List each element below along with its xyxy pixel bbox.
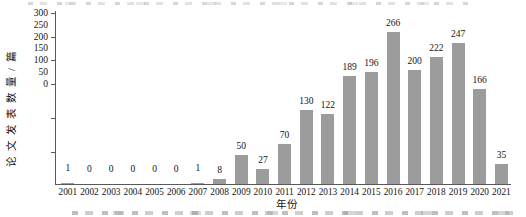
x-tick-label: 2011 bbox=[273, 187, 297, 198]
x-tick-label: 2013 bbox=[316, 187, 340, 198]
cropped-text-artifact-bottom bbox=[72, 211, 518, 215]
y-axis-line bbox=[55, 11, 56, 185]
bar-value-label: 247 bbox=[441, 29, 475, 40]
bar-value-label: 122 bbox=[311, 100, 345, 111]
x-axis-line bbox=[55, 184, 511, 185]
y-tick-mark bbox=[51, 37, 55, 38]
x-tick-label: 2002 bbox=[77, 187, 101, 198]
bar bbox=[473, 89, 486, 184]
y-tick-label: 300 bbox=[14, 7, 48, 19]
bar bbox=[452, 43, 465, 184]
y-tick-mark bbox=[51, 84, 55, 85]
x-tick-label: 2006 bbox=[164, 187, 188, 198]
bar bbox=[495, 164, 508, 184]
bar bbox=[278, 144, 291, 184]
bar bbox=[430, 57, 443, 184]
x-tick-label: 2021 bbox=[489, 187, 513, 198]
x-tick-label: 2004 bbox=[121, 187, 145, 198]
x-tick-label: 2007 bbox=[186, 187, 210, 198]
y-tick-label: 0 bbox=[14, 78, 48, 90]
bar-value-label: 266 bbox=[376, 18, 410, 29]
y-tick-mark bbox=[51, 60, 55, 61]
x-tick-label: 2019 bbox=[446, 187, 470, 198]
bar bbox=[365, 72, 378, 184]
y-tick-mark bbox=[51, 118, 55, 119]
bar-value-label: 50 bbox=[224, 141, 258, 152]
bar-value-label: 70 bbox=[268, 130, 302, 141]
bar bbox=[343, 76, 356, 184]
x-axis-title: 年份 bbox=[263, 199, 311, 211]
bar-value-label: 200 bbox=[398, 56, 432, 67]
x-tick-label: 2008 bbox=[208, 187, 232, 198]
x-tick-label: 2018 bbox=[424, 187, 448, 198]
bar-value-label: 222 bbox=[419, 43, 453, 54]
bar bbox=[191, 183, 204, 184]
y-tick-mark bbox=[51, 152, 55, 153]
bar bbox=[213, 179, 226, 184]
bar bbox=[387, 32, 400, 184]
y-tick-label: 50 bbox=[14, 66, 48, 78]
x-tick-label: 2001 bbox=[56, 187, 80, 198]
x-tick-label: 2003 bbox=[99, 187, 123, 198]
bar-value-label: 166 bbox=[463, 75, 497, 86]
y-tick-label: 100 bbox=[14, 54, 48, 66]
x-tick-label: 2020 bbox=[468, 187, 492, 198]
bar bbox=[61, 183, 74, 184]
bar-value-label: 8 bbox=[203, 165, 237, 176]
bar-value-label: 196 bbox=[354, 58, 388, 69]
x-tick-label: 2010 bbox=[251, 187, 275, 198]
bar-value-label: 35 bbox=[484, 150, 518, 161]
bar bbox=[256, 169, 269, 184]
bar-value-label: 27 bbox=[246, 155, 280, 166]
x-tick-label: 2015 bbox=[359, 187, 383, 198]
y-tick-label: 200 bbox=[14, 31, 48, 43]
x-tick-label: 2009 bbox=[229, 187, 253, 198]
bar bbox=[321, 114, 334, 184]
bar bbox=[408, 70, 421, 184]
y-tick-label: 150 bbox=[14, 42, 48, 54]
y-tick-mark bbox=[51, 13, 55, 14]
bar bbox=[300, 110, 313, 184]
x-tick-label: 2014 bbox=[338, 187, 362, 198]
x-tick-label: 2012 bbox=[294, 187, 318, 198]
x-tick-label: 2016 bbox=[381, 187, 405, 198]
cropped-text-artifact-top bbox=[28, 2, 470, 5]
x-tick-label: 2005 bbox=[143, 187, 167, 198]
x-tick-label: 2017 bbox=[403, 187, 427, 198]
y-tick-label: 250 bbox=[14, 19, 48, 31]
bar-chart-figure: 论文发表数量/篇 300250200150100500 100000185027… bbox=[0, 0, 526, 217]
